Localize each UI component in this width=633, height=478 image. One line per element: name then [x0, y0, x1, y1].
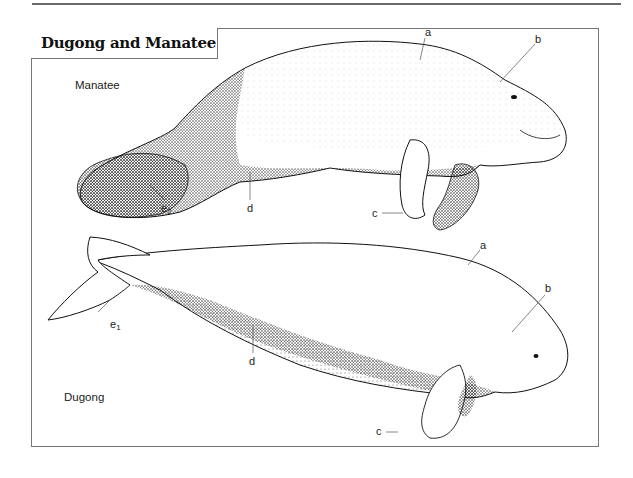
- label-b-manatee: b: [535, 33, 541, 45]
- species-label-manatee: Manatee: [75, 79, 120, 91]
- label-d-dugong: d: [249, 355, 255, 367]
- label-a-dugong: a: [480, 239, 486, 251]
- manatee-illustration: [77, 38, 566, 230]
- figure-title: Dugong and Manatee: [41, 34, 216, 52]
- leader-b-manatee: [500, 44, 535, 82]
- dugong-illustration: [48, 237, 568, 438]
- species-label-dugong: Dugong: [64, 391, 104, 403]
- label-c-manatee: c: [372, 207, 378, 219]
- label-b-dugong: b: [545, 282, 551, 294]
- label-e1: e1: [110, 318, 121, 332]
- label-d-manatee: d: [247, 202, 253, 214]
- illustration: [0, 0, 633, 478]
- label-e2: e2: [161, 202, 172, 216]
- label-c-dugong: c: [376, 425, 382, 437]
- label-a-manatee: a: [425, 26, 431, 38]
- label-e1-subscript: 1: [116, 323, 120, 332]
- label-e2-subscript: 2: [167, 207, 171, 216]
